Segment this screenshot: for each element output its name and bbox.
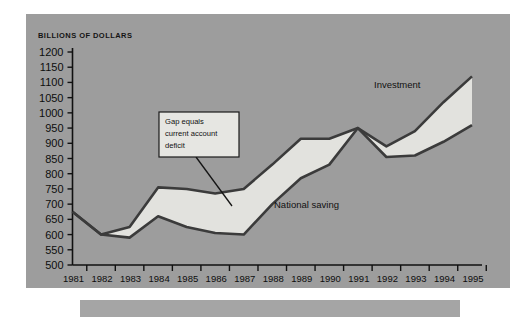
- chart-page: BILLIONS OF DOLLARS 12001150110010501000…: [0, 0, 524, 320]
- x-axis-tick-label: 1989: [291, 273, 312, 284]
- x-axis-tick-label: 1983: [120, 273, 141, 284]
- y-axis-tick-label: 500: [45, 259, 63, 271]
- y-axis-tick-label: 700: [45, 198, 63, 210]
- y-axis-tick-label: 800: [45, 168, 63, 180]
- y-axis-tick-label: 750: [45, 183, 63, 195]
- gap-fill-area: [73, 76, 473, 237]
- x-axis-tick-label: 1991: [348, 273, 369, 284]
- y-axis-tick-label: 850: [45, 153, 63, 165]
- x-axis-tick-labels: 1981198219831984198519861987198819891990…: [63, 273, 484, 284]
- y-axis-tick-label: 650: [45, 213, 63, 225]
- gap-callout-line-2: current account: [165, 129, 218, 138]
- x-axis-tick-label: 1994: [434, 273, 455, 284]
- chart-svg: 1200115011001050100095090085080075070065…: [0, 0, 524, 320]
- y-axis-tick-label: 550: [45, 244, 63, 256]
- y-axis-tick-label: 1050: [39, 92, 63, 104]
- footer-bar: [80, 300, 460, 317]
- x-axis-ticks: [87, 265, 487, 271]
- investment-label: Investment: [374, 79, 421, 90]
- x-axis-tick-label: 1987: [234, 273, 255, 284]
- x-axis-tick-label: 1988: [263, 273, 284, 284]
- x-axis-tick-label: 1993: [405, 273, 426, 284]
- x-axis-tick-label: 1985: [177, 273, 198, 284]
- y-axis-tick-label: 1150: [40, 61, 64, 73]
- y-axis-tick-labels: 1200115011001050100095090085080075070065…: [39, 46, 63, 271]
- y-axis-tick-label: 1100: [40, 76, 64, 88]
- x-axis-tick-label: 1995: [462, 273, 483, 284]
- x-axis-tick-label: 1982: [91, 273, 112, 284]
- x-axis-tick-label: 1986: [206, 273, 227, 284]
- y-axis-tick-label: 900: [45, 137, 63, 149]
- gap-callout-line-1: Gap equals: [165, 117, 204, 126]
- y-axis-tick-label: 950: [45, 122, 63, 134]
- x-axis-tick-label: 1981: [63, 273, 84, 284]
- national-saving-label: National saving: [274, 199, 339, 210]
- gap-callout-line-3: deficit: [165, 141, 186, 150]
- x-axis-tick-label: 1990: [320, 273, 341, 284]
- y-axis-tick-label: 600: [45, 229, 63, 241]
- x-axis-tick-label: 1984: [149, 273, 170, 284]
- x-axis-tick-label: 1992: [377, 273, 398, 284]
- y-axis-tick-label: 1200: [39, 46, 63, 58]
- y-axis-tick-label: 1000: [39, 107, 63, 119]
